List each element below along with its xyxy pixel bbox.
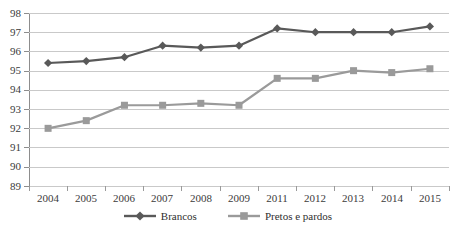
x-axis-tick xyxy=(181,186,182,191)
gridline xyxy=(29,167,449,168)
legend-marker-square-icon xyxy=(227,210,261,222)
y-axis-tick-label: 94 xyxy=(0,84,21,95)
legend-label: Pretos e pardos xyxy=(265,210,332,222)
gridline xyxy=(29,128,449,129)
chart-legend: Brancos Pretos e pardos xyxy=(0,207,455,225)
gridline xyxy=(29,90,449,91)
gridline xyxy=(29,147,449,148)
chart-title-truncated xyxy=(0,0,455,6)
x-axis-tick-label: 2012 xyxy=(295,192,335,204)
x-axis-tick-label: 2009 xyxy=(219,192,259,204)
x-axis-tick xyxy=(29,186,30,191)
x-axis-tick-label: 2006 xyxy=(104,192,144,204)
y-axis-tick-label: 95 xyxy=(0,65,21,76)
y-axis-tick-label: 91 xyxy=(0,142,21,153)
chart-container: 98 97 96 95 94 93 92 91 90 89 xyxy=(0,0,455,228)
legend-entry-pretos-e-pardos[interactable]: Pretos e pardos xyxy=(227,210,332,222)
x-axis-tick xyxy=(372,186,373,191)
x-axis-tick-label: 2005 xyxy=(66,192,106,204)
y-axis-tick-label: 93 xyxy=(0,104,21,115)
gridline xyxy=(29,71,449,72)
x-axis-tick-label: 2007 xyxy=(142,192,182,204)
x-axis-tick xyxy=(143,186,144,191)
x-axis-tick-label: 2004 xyxy=(28,192,68,204)
x-axis-tick xyxy=(411,186,412,191)
plot-area xyxy=(29,13,449,186)
x-axis-tick xyxy=(258,186,259,191)
x-axis-tick xyxy=(296,186,297,191)
gridline xyxy=(29,109,449,110)
x-axis-tick xyxy=(220,186,221,191)
gridline xyxy=(29,32,449,33)
x-axis-tick xyxy=(67,186,68,191)
legend-entry-brancos[interactable]: Brancos xyxy=(123,210,197,222)
legend-label: Brancos xyxy=(161,210,197,222)
y-axis-tick-label: 96 xyxy=(0,46,21,57)
y-axis-tick-label: 90 xyxy=(0,161,21,172)
x-axis-tick-label: 2011 xyxy=(257,192,297,204)
y-axis-tick-label: 89 xyxy=(0,181,21,192)
legend-marker-diamond-icon xyxy=(123,210,157,222)
x-axis-tick xyxy=(334,186,335,191)
y-axis-tick-label: 97 xyxy=(0,27,21,38)
x-axis-tick xyxy=(105,186,106,191)
gridline xyxy=(29,51,449,52)
y-axis-tick-label: 98 xyxy=(0,8,21,19)
gridline xyxy=(29,186,449,187)
x-axis-labels: 2004 2005 2006 2007 2008 2009 2011 2012 … xyxy=(0,192,455,206)
x-axis-tick-label: 2015 xyxy=(410,192,450,204)
x-axis-tick-label: 2008 xyxy=(181,192,221,204)
x-axis-tick xyxy=(449,186,450,191)
y-axis-tick-label: 92 xyxy=(0,123,21,134)
gridline xyxy=(29,13,449,14)
x-axis-tick-label: 2014 xyxy=(372,192,412,204)
x-axis-tick-label: 2013 xyxy=(333,192,373,204)
